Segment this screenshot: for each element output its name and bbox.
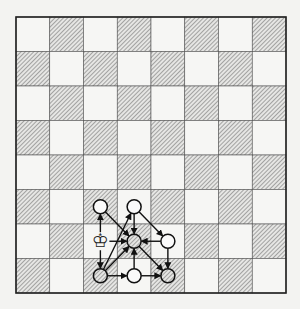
light-square	[219, 224, 253, 259]
light-square	[84, 155, 118, 190]
dark-square	[16, 52, 50, 87]
dark-square	[219, 52, 253, 87]
node-circle-B	[127, 200, 141, 214]
light-square	[252, 52, 286, 87]
light-square	[185, 190, 219, 225]
light-square	[16, 224, 50, 259]
dark-square	[219, 259, 253, 294]
pieces: ♔	[92, 229, 109, 251]
dark-square	[84, 121, 118, 156]
node-circle-C	[127, 234, 141, 248]
dark-square	[185, 224, 219, 259]
light-square	[16, 17, 50, 52]
light-square	[219, 17, 253, 52]
light-square	[151, 86, 185, 121]
dark-square	[185, 17, 219, 52]
dark-square	[185, 86, 219, 121]
light-square	[50, 121, 84, 156]
dark-square	[151, 121, 185, 156]
light-square	[16, 86, 50, 121]
light-square	[185, 259, 219, 294]
dark-square	[16, 259, 50, 294]
dark-square	[219, 121, 253, 156]
node-circle-E	[93, 269, 107, 283]
light-square	[219, 155, 253, 190]
dark-square	[151, 52, 185, 87]
dark-square	[50, 224, 84, 259]
dark-square	[117, 86, 151, 121]
light-square	[252, 190, 286, 225]
light-square	[84, 17, 118, 52]
dark-square	[16, 121, 50, 156]
dark-square	[185, 155, 219, 190]
dark-square	[50, 17, 84, 52]
dark-square	[84, 52, 118, 87]
light-square	[50, 52, 84, 87]
node-circle-D	[161, 234, 175, 248]
white-king-icon: ♔	[92, 229, 109, 251]
light-square	[50, 259, 84, 294]
light-square	[185, 121, 219, 156]
node-circle-G	[161, 269, 175, 283]
dark-square	[117, 155, 151, 190]
light-square	[151, 17, 185, 52]
dark-square	[151, 190, 185, 225]
light-square	[219, 86, 253, 121]
dark-square	[16, 190, 50, 225]
node-circle-A	[93, 200, 107, 214]
board-squares	[16, 17, 286, 293]
node-circle-F	[127, 269, 141, 283]
light-square	[117, 52, 151, 87]
light-square	[117, 121, 151, 156]
dark-square	[252, 86, 286, 121]
chessboard-diagram: ♔	[0, 0, 300, 309]
light-square	[252, 121, 286, 156]
dark-square	[117, 17, 151, 52]
light-square	[84, 86, 118, 121]
light-square	[252, 259, 286, 294]
dark-square	[50, 86, 84, 121]
dark-square	[252, 224, 286, 259]
dark-square	[50, 155, 84, 190]
light-square	[185, 52, 219, 87]
dark-square	[252, 17, 286, 52]
dark-square	[252, 155, 286, 190]
light-square	[151, 155, 185, 190]
light-square	[50, 190, 84, 225]
dark-square	[219, 190, 253, 225]
light-square	[16, 155, 50, 190]
